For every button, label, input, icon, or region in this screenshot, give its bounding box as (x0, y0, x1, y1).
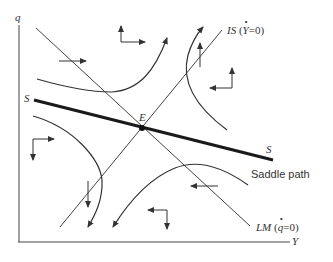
lm-label: LM (q=0) (256, 222, 299, 233)
saddle-label-right: S (266, 144, 272, 155)
equilibrium-point (139, 125, 145, 131)
trajectory-top (37, 38, 167, 92)
equilibrium-label: E (139, 112, 146, 123)
phase-diagram: q Y S S E Saddle path IS (Y=0) LM (q=0) (0, 0, 333, 262)
saddle-path-caption: Saddle path (251, 169, 310, 180)
is-name: IS (227, 24, 236, 36)
trajectory-right-upper (186, 27, 227, 130)
saddle-label-left: S (24, 93, 30, 104)
x-axis-label: Y (292, 236, 298, 247)
trajectory-bottom (113, 164, 248, 227)
lm-cond-rest: =0) (283, 221, 298, 233)
is-cond-rest: =0) (249, 24, 264, 36)
is-cond-var: Y (243, 25, 249, 36)
lm-cond-var: q (278, 222, 284, 233)
y-axis-label: q (15, 12, 21, 23)
is-label: IS (Y=0) (227, 25, 264, 36)
lm-name: LM (256, 221, 271, 233)
trajectory-left-lower (33, 116, 102, 227)
saddle-path (34, 100, 273, 160)
